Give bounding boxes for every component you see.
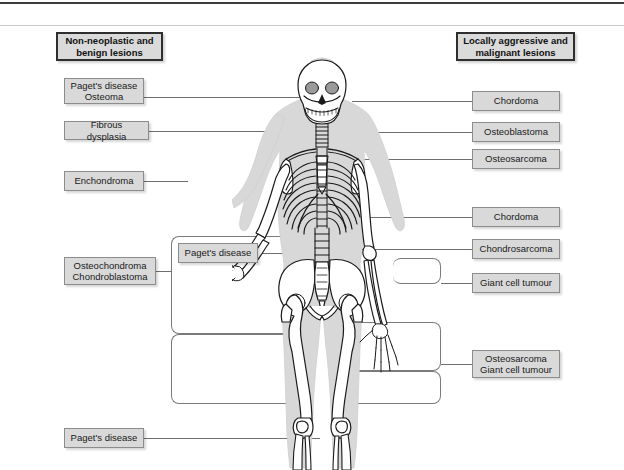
label-enchondroma-text: Enchondroma (69, 175, 138, 187)
label-chordoma-sacrum[interactable]: Chordoma (472, 207, 560, 227)
label-pagets-osteoma-text: Paget's disease Osteoma (66, 80, 143, 103)
label-pagets-osteoma[interactable]: Paget's disease Osteoma (64, 78, 144, 104)
top-dark-rule (0, 2, 624, 4)
label-osteosarcoma-spine[interactable]: Osteosarcoma (472, 149, 560, 169)
label-osteochondroma-chondroblastoma[interactable]: Osteochondroma Chondroblastoma (64, 257, 156, 285)
label-pagets-disease-bottom-text: Paget's disease (66, 432, 143, 444)
label-osteosarcoma-giant-cell-tumour[interactable]: Osteosarcoma Giant cell tumour (472, 350, 560, 378)
label-giant-cell-tumour-text: Giant cell tumour (475, 277, 557, 289)
label-chondrosarcoma[interactable]: Chondrosarcoma (472, 239, 560, 259)
label-osteoblastoma-text: Osteoblastoma (479, 126, 553, 138)
leader-enchondroma (144, 181, 188, 182)
label-giant-cell-tumour[interactable]: Giant cell tumour (472, 273, 560, 293)
label-pagets-disease-bottom[interactable]: Paget's disease (64, 428, 144, 448)
label-osteosarcoma-spine-text: Osteosarcoma (480, 153, 552, 165)
label-fibrous-dysplasia[interactable]: Fibrous dysplasia (64, 121, 149, 140)
title-right-text: Locally aggressive and malignant lesions (458, 35, 573, 58)
label-fibrous-dysplasia-text: Fibrous dysplasia (65, 119, 148, 142)
label-osteoblastoma[interactable]: Osteoblastoma (472, 122, 560, 142)
label-chordoma-skull-text: Chordoma (489, 95, 543, 107)
anatomical-bone-lesion-diagram: Non-neoplastic and benign lesions Locall… (0, 0, 624, 470)
title-left-text: Non-neoplastic and benign lesions (58, 35, 161, 58)
title-non-neoplastic-benign: Non-neoplastic and benign lesions (56, 32, 163, 61)
skeleton-illustration (232, 52, 412, 470)
label-pagets-disease-pelvis-text: Paget's disease (180, 247, 257, 259)
label-chordoma-sacrum-text: Chordoma (489, 211, 543, 223)
label-osteosarcoma-giant-cell-tumour-text: Osteosarcoma Giant cell tumour (475, 353, 557, 376)
label-chondrosarcoma-text: Chondrosarcoma (475, 243, 558, 255)
label-enchondroma[interactable]: Enchondroma (64, 171, 144, 191)
label-osteochondroma-chondroblastoma-text: Osteochondroma Chondroblastoma (68, 260, 153, 283)
top-light-rule (0, 25, 624, 26)
label-chordoma-skull[interactable]: Chordoma (472, 91, 560, 111)
leader-osteosarcoma-gct (441, 364, 472, 365)
title-locally-aggressive-malignant: Locally aggressive and malignant lesions (456, 32, 575, 61)
label-pagets-disease-pelvis[interactable]: Paget's disease (178, 243, 258, 263)
leader-giant-cell-tumour (441, 283, 472, 284)
leader-osteochondroma (156, 271, 172, 272)
